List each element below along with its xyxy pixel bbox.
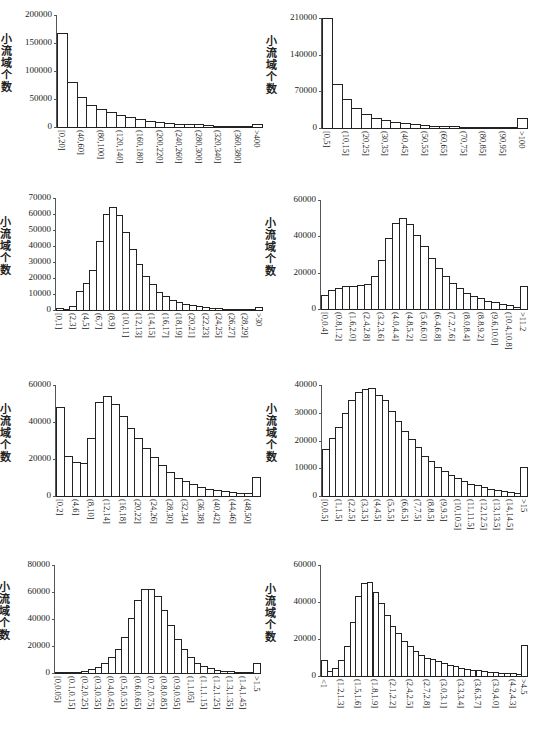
y-axis-label: 小流域个数 [261, 583, 277, 643]
y-tick-mark [53, 294, 56, 295]
x-tick-label: (22,23] [201, 313, 211, 338]
y-axis-label: 小流域个数 [0, 581, 11, 641]
x-tick-label: (4,4.5] [373, 499, 383, 522]
x-tick-label: (3.3,3.4] [456, 679, 466, 708]
x-tick-label: (14,14.5] [505, 499, 515, 530]
y-tick-mark [319, 385, 322, 386]
x-tick-label: (0.1,0.15] [67, 676, 77, 709]
x-tick-label: (4,6] [71, 499, 81, 515]
x-tick-label: (80,100] [96, 130, 106, 159]
x-tick-label: (0.4,0.45] [106, 676, 116, 709]
y-tick-label: 0 [4, 304, 51, 314]
x-tick-label: (80,85] [478, 131, 488, 156]
y-tick-mark [53, 230, 56, 231]
y-tick-label: 0 [5, 121, 52, 131]
y-tick-mark [52, 565, 55, 566]
x-tick-label: [0,0.05] [53, 676, 63, 703]
x-tick-label: (8,8.5] [426, 499, 436, 522]
x-tick-label: (70,75] [459, 131, 469, 156]
x-tick-label: (3.2,3.6] [376, 312, 386, 341]
x-tick-label: (2,3] [68, 313, 78, 329]
y-tick-mark [318, 236, 321, 237]
x-tick-label: (48,50] [243, 499, 253, 524]
y-tick-label: 10000 [4, 288, 51, 298]
x-tick-label: (24,26] [149, 499, 159, 524]
x-tick-label: (1.6,2.0] [348, 312, 358, 341]
x-tick-label: (1.8,1.9] [370, 679, 380, 708]
y-tick-mark [319, 413, 322, 414]
histogram-bar [520, 467, 528, 497]
x-tick-label: (0.8,1.2] [334, 312, 344, 341]
x-tick-label: (1.3,1.35] [225, 676, 235, 709]
x-tick-label: >1.5 [252, 676, 262, 691]
x-tick-label: (36,38] [196, 499, 206, 524]
x-tick-label: [0,20] [57, 130, 67, 151]
x-tick-label: (0.8,0.85] [159, 676, 169, 709]
histogram-bar [520, 286, 528, 310]
x-tick-label: (5,5.5] [386, 499, 396, 522]
x-tick-label: (12,13] [134, 313, 144, 338]
x-tick-label: (280,300] [194, 130, 204, 163]
x-tick-label: (12,12.5] [479, 499, 489, 530]
y-tick-label: 60000 [4, 379, 51, 389]
x-tick-label: (8.0,8.4] [462, 312, 472, 341]
x-tick-label: (7.2,7.6] [447, 312, 457, 341]
x-tick-label: [0,0.4] [320, 312, 330, 335]
x-tick-label: (44,46] [228, 499, 238, 524]
y-tick-mark [318, 200, 321, 201]
x-tick-label: (1,1.5] [334, 499, 344, 522]
y-tick-mark [318, 565, 321, 566]
y-tick-mark [53, 246, 56, 247]
x-tick-label: [0,5] [322, 131, 332, 147]
x-tick-label: (0.5,0.55] [119, 676, 129, 709]
y-tick-label: 0 [4, 490, 51, 500]
y-tick-label: 210000 [270, 12, 317, 22]
x-tick-label: (9.6,10.0] [490, 312, 500, 345]
x-tick-label: (0.2,0.25] [80, 676, 90, 709]
x-tick-label: (10,15] [341, 131, 351, 156]
y-tick-mark [53, 198, 56, 199]
x-tick-label: (4.0,4.4] [391, 312, 401, 341]
x-tick-label: >400 [252, 130, 262, 148]
y-axis [320, 200, 321, 309]
x-tick-label: (90,95] [498, 131, 508, 156]
x-tick-label: >4.5 [519, 679, 529, 694]
x-tick-label: (8,9] [107, 313, 117, 329]
y-tick-label: 50000 [5, 93, 52, 103]
x-tick-label: (32,34] [180, 499, 190, 524]
x-tick-label: (60,65] [439, 131, 449, 156]
y-tick-mark [52, 646, 55, 647]
y-tick-mark [53, 214, 56, 215]
x-tick-label: (160,180] [135, 130, 145, 163]
x-tick-label: (240,260] [174, 130, 184, 163]
x-tick-label: (14,15] [147, 313, 157, 338]
x-tick-label: (0.6,0.65] [133, 676, 143, 709]
x-tick-label: [0,0.5] [320, 499, 330, 522]
x-tick-label: (8.8,9.2] [476, 312, 486, 341]
y-tick-label: 0 [3, 667, 50, 677]
y-tick-mark [53, 278, 56, 279]
x-tick-label: [0,1] [54, 313, 64, 329]
y-tick-label: 200000 [5, 9, 52, 19]
y-tick-label: 60000 [269, 559, 316, 569]
x-tick-label: (5.6,6.0] [419, 312, 429, 341]
x-tick-label: (6,7] [94, 313, 104, 329]
x-tick-label: (4.2,4.3] [508, 679, 518, 708]
x-tick-label: >11.2 [518, 312, 528, 331]
x-tick-label: (4.8,5.2] [405, 312, 415, 341]
y-tick-mark [52, 592, 55, 593]
x-tick-label: >100 [517, 131, 527, 149]
x-tick-label: (1.4,1.45] [238, 676, 248, 709]
y-axis-label: 小流域个数 [0, 33, 13, 93]
x-tick-label: (1.1,1.15] [199, 676, 209, 709]
y-axis-label: 小流域个数 [0, 403, 12, 463]
y-tick-label: 0 [270, 122, 317, 132]
x-tick-label: (28,30] [165, 499, 175, 524]
x-tick-label: (30,35] [380, 131, 390, 156]
x-tick-label: (320,340] [213, 130, 223, 163]
y-tick-mark [52, 619, 55, 620]
x-tick-label: (28,29] [240, 313, 250, 338]
y-tick-label: 10000 [270, 462, 317, 472]
x-tick-label: (3.0,3.1] [439, 679, 449, 708]
x-tick-label: <1 [319, 679, 329, 688]
